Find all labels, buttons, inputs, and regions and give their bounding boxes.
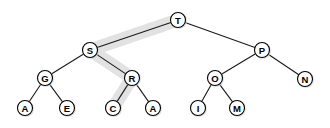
- tree-edge-P-N: [268, 54, 299, 75]
- tree-node-A2[interactable]: A: [145, 100, 162, 117]
- tree-edge-R-A2: [136, 84, 148, 102]
- tree-node-P[interactable]: P: [254, 42, 271, 59]
- node-label-G: G: [41, 73, 48, 84]
- node-label-S: S: [87, 45, 93, 56]
- tree-node-O[interactable]: O: [207, 70, 224, 87]
- tree-edge-O-M: [219, 84, 232, 102]
- tree-node-R[interactable]: R: [124, 70, 141, 87]
- highlight-band: [90, 20, 178, 108]
- node-label-C: C: [110, 103, 117, 114]
- node-label-R: R: [129, 73, 136, 84]
- node-label-O: O: [211, 73, 218, 84]
- node-label-M: M: [233, 103, 241, 114]
- tree-node-M[interactable]: M: [229, 100, 246, 117]
- tree-node-E[interactable]: E: [59, 100, 76, 117]
- search-path-highlight: [90, 20, 178, 108]
- tree-node-C[interactable]: C: [105, 100, 122, 117]
- tree-node-S[interactable]: S: [82, 42, 99, 59]
- tree-node-T[interactable]: T: [170, 12, 187, 29]
- node-label-I: I: [197, 103, 200, 114]
- tree-edge-S-G: [51, 54, 83, 74]
- tree-edge-T-P: [185, 23, 255, 48]
- node-label-N: N: [302, 74, 309, 85]
- tree-edge-P-O: [221, 54, 255, 74]
- tree-edge-O-I: [202, 85, 212, 102]
- tree-edge-G-A1: [29, 84, 41, 102]
- node-label-E: E: [64, 103, 70, 114]
- tree-node-A1[interactable]: A: [17, 100, 34, 117]
- tree-edge-G-E: [49, 84, 62, 102]
- binary-search-tree-figure: TSPGRONAECAIM: [0, 0, 330, 128]
- tree-node-G[interactable]: G: [37, 70, 54, 87]
- node-label-P: P: [259, 45, 266, 56]
- tree-canvas: TSPGRONAECAIM: [0, 0, 330, 128]
- tree-edge-T-S: [97, 22, 171, 47]
- tree-node-N[interactable]: N: [297, 71, 314, 88]
- tree-node-I[interactable]: I: [190, 100, 207, 117]
- node-label-A2: A: [150, 103, 157, 114]
- node-label-A1: A: [22, 103, 29, 114]
- tree-edges: [29, 22, 299, 102]
- node-label-T: T: [175, 15, 181, 26]
